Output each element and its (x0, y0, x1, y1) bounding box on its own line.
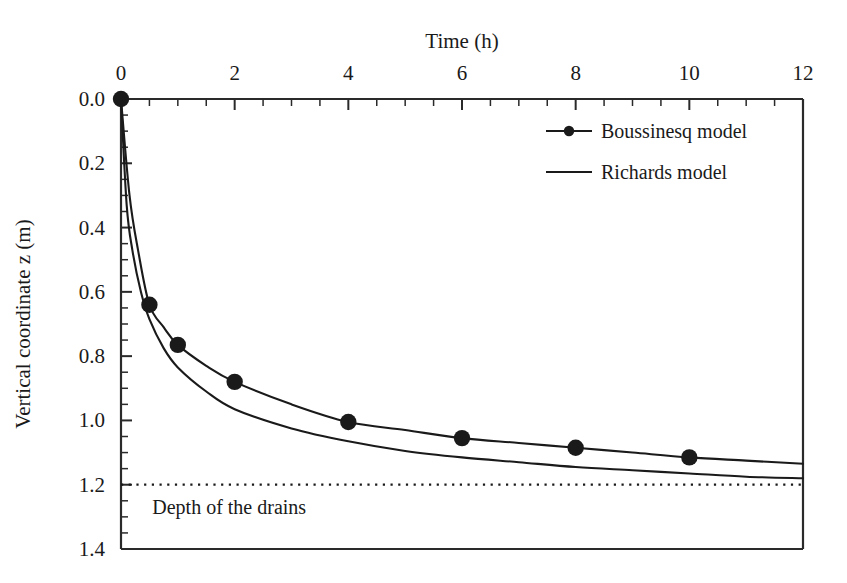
x-tick-label: 12 (793, 61, 814, 85)
chart-annotations: Depth of the drains (121, 485, 803, 519)
y-tick-label: 0.0 (79, 87, 105, 111)
y-tick-label: 1.2 (79, 473, 105, 497)
y-axis-title: Vertical coordinate z (m) (11, 219, 35, 428)
legend-entry-boussinesq: Boussinesq model (546, 120, 748, 143)
data-point-marker (226, 374, 242, 390)
data-point-marker (681, 449, 697, 465)
y-tick-label: 0.8 (79, 344, 105, 368)
legend-entry-richards: Richards model (546, 161, 728, 183)
x-tick-label: 4 (343, 61, 354, 85)
chart-figure: 024681012 0.00.20.40.60.81.01.21.4 Depth… (0, 0, 847, 583)
data-point-marker (170, 337, 186, 353)
x-tick-label: 6 (457, 61, 468, 85)
y-tick-label: 0.2 (79, 151, 105, 175)
x-tick-label: 0 (116, 61, 127, 85)
x-tick-label: 10 (679, 61, 700, 85)
series-line (121, 99, 803, 464)
y-tick-label: 1.4 (79, 537, 106, 561)
x-tick-label: 2 (229, 61, 240, 85)
x-axis-tick-labels: 024681012 (116, 61, 814, 85)
series-boussinesq-model (113, 91, 803, 466)
x-axis-ticks (121, 99, 803, 110)
x-axis-title: Time (h) (425, 29, 498, 53)
data-point-marker (340, 414, 356, 430)
chart-legend: Boussinesq model Richards model (546, 120, 748, 183)
y-tick-label: 1.0 (79, 408, 105, 432)
series-richards-model (121, 99, 803, 478)
data-point-marker (567, 440, 583, 456)
chart-canvas: 024681012 0.00.20.40.60.81.01.21.4 Depth… (0, 0, 847, 583)
legend-label-boussinesq: Boussinesq model (601, 120, 748, 143)
x-tick-label: 8 (570, 61, 581, 85)
legend-marker-boussinesq (564, 126, 574, 136)
data-series-layer (113, 91, 803, 478)
series-line (121, 99, 803, 478)
legend-label-richards: Richards model (601, 161, 728, 183)
y-tick-label: 0.6 (79, 280, 105, 304)
y-axis-tick-labels: 0.00.20.40.60.81.01.21.4 (79, 87, 106, 561)
drain-depth-label: Depth of the drains (152, 496, 306, 519)
y-tick-label: 0.4 (79, 216, 106, 240)
data-point-marker (454, 430, 470, 446)
